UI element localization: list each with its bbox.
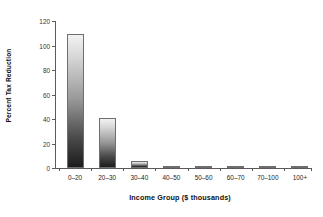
y-tick-label: 60 <box>43 91 50 98</box>
plot-area: 020406080100120 0–2020–3030–4040–5050–60… <box>55 21 312 168</box>
x-tick-mark <box>188 168 189 171</box>
y-tick-label: 120 <box>39 18 50 25</box>
x-tick-mark <box>252 168 253 171</box>
bar <box>163 166 180 168</box>
y-tick-label: 0 <box>46 165 50 172</box>
x-tick-mark <box>220 168 221 171</box>
x-axis-line <box>55 168 312 169</box>
y-tick-mark <box>52 168 55 169</box>
x-tick-label: 30–40 <box>130 174 148 181</box>
bar <box>259 166 276 168</box>
x-tick-label: 0–20 <box>68 174 82 181</box>
x-tick-mark <box>155 168 156 171</box>
bar <box>227 166 244 168</box>
bar <box>67 34 84 168</box>
x-tick-mark <box>311 168 312 171</box>
x-tick-label: 20–30 <box>98 174 116 181</box>
bar-chart-figure: Percent Tax Reduction 020406080100120 0–… <box>0 0 323 217</box>
y-axis-title-text: Percent Tax Reduction <box>5 48 12 122</box>
x-tick-label: 60–70 <box>227 174 245 181</box>
x-tick-mark <box>123 168 124 171</box>
bars-layer <box>55 21 312 168</box>
y-tick-label: 20 <box>43 140 50 147</box>
x-tick-mark <box>59 168 60 171</box>
x-tick-label: 100+ <box>293 174 307 181</box>
y-tick-label: 40 <box>43 116 50 123</box>
x-tick-label: 50–60 <box>195 174 213 181</box>
y-tick-label: 80 <box>43 67 50 74</box>
x-tick-label: 40–50 <box>163 174 181 181</box>
bar <box>99 118 116 168</box>
x-tick-label: 70–100 <box>257 174 278 181</box>
y-tick-label: 100 <box>39 42 50 49</box>
bar <box>291 166 308 168</box>
x-tick-mark <box>91 168 92 171</box>
x-tick-mark <box>284 168 285 171</box>
y-axis-title: Percent Tax Reduction <box>0 0 16 170</box>
x-axis-title: Income Group ($ thousands) <box>46 193 314 202</box>
bar <box>195 166 212 168</box>
bar <box>131 161 148 168</box>
